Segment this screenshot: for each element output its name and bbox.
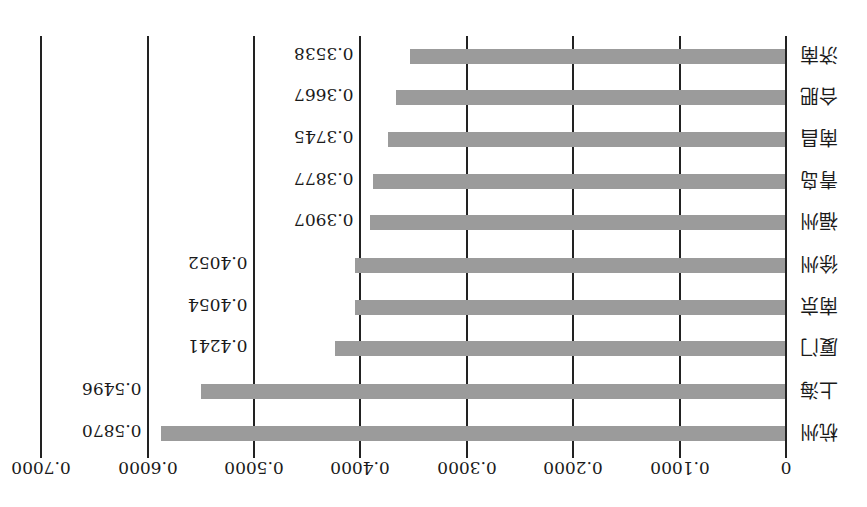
- category-label: 上海: [800, 378, 838, 405]
- category-label: 济南: [800, 43, 838, 70]
- bar-value-label: 0.4054: [188, 295, 247, 315]
- x-tick-label: 0.7000: [1, 458, 81, 478]
- bar: [161, 426, 786, 441]
- bar: [355, 300, 786, 315]
- bar-value-label: 0.3745: [294, 127, 353, 147]
- x-tick-label: 0.5000: [214, 458, 294, 478]
- gridline: [147, 36, 149, 458]
- bar: [355, 258, 786, 273]
- bar-value-label: 0.3538: [294, 44, 353, 64]
- bar: [373, 174, 786, 189]
- bar-value-label: 0.3907: [294, 210, 353, 230]
- category-label: 南昌: [800, 126, 838, 153]
- category-label: 南京: [800, 294, 838, 321]
- bar-value-label: 0.3667: [294, 85, 353, 105]
- category-label: 杭州: [800, 420, 838, 447]
- bar-value-label: 0.3877: [294, 169, 353, 189]
- x-tick-label: 0: [746, 458, 826, 478]
- bar-value-label: 0.5496: [82, 379, 141, 399]
- bar: [370, 215, 786, 230]
- bar: [388, 132, 786, 147]
- x-tick-label: 0.4000: [320, 458, 400, 478]
- bar: [201, 384, 786, 399]
- bar-chart: 00.10000.20000.30000.40000.50000.60000.7…: [0, 0, 867, 507]
- bar: [335, 341, 786, 356]
- x-tick-label: 0.6000: [108, 458, 188, 478]
- bar: [410, 49, 786, 64]
- zero-axis-line: [785, 36, 787, 458]
- category-label: 福州: [800, 209, 838, 236]
- category-label: 厦门: [800, 335, 838, 362]
- bar-value-label: 0.4052: [188, 253, 247, 273]
- gridline: [40, 36, 42, 458]
- bar-value-label: 0.4241: [188, 336, 247, 356]
- category-label: 合肥: [800, 84, 838, 111]
- x-tick-label: 0.1000: [640, 458, 720, 478]
- x-tick-label: 0.3000: [427, 458, 507, 478]
- bar: [396, 90, 786, 105]
- category-label: 青岛: [800, 168, 838, 195]
- category-label: 徐州: [800, 252, 838, 279]
- x-tick-label: 0.2000: [533, 458, 613, 478]
- bar-value-label: 0.5870: [82, 421, 141, 441]
